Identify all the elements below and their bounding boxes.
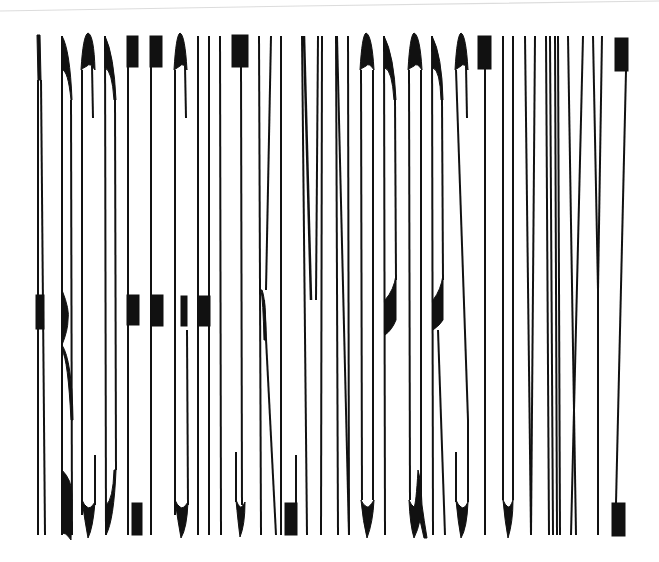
letter-d	[105, 36, 116, 535]
letter-w	[546, 36, 560, 535]
letter-j	[232, 35, 248, 537]
letter-y	[593, 36, 602, 535]
letter-q	[408, 33, 427, 538]
letter-p	[384, 36, 396, 535]
letter-z	[612, 38, 628, 536]
letter-v	[525, 36, 535, 535]
letter-b	[62, 36, 73, 540]
letter-o	[360, 33, 374, 538]
letter-r	[432, 36, 445, 535]
letter-m	[302, 36, 322, 535]
letter-a	[36, 35, 45, 535]
letter-n	[336, 36, 349, 535]
stretched-alphabet-artwork	[0, 0, 659, 562]
letter-x	[568, 36, 583, 535]
letter-c	[81, 33, 95, 538]
letter-t	[478, 36, 491, 535]
letter-l	[281, 36, 297, 535]
letter-u	[503, 36, 513, 538]
letter-i	[220, 36, 221, 535]
letter-e	[127, 36, 142, 535]
letter-f	[150, 36, 163, 535]
letter-s	[455, 33, 468, 538]
letter-g	[174, 33, 188, 538]
letter-k	[259, 36, 276, 535]
letter-h	[198, 36, 210, 535]
